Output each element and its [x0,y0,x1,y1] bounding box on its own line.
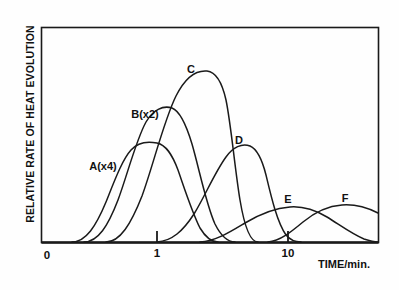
curve-d [157,145,301,242]
curve-label-b: B(x2) [131,108,159,120]
x-axis-title: TIME/min. [318,258,370,270]
curve-label-e: E [284,193,291,205]
chart-figure: RELATIVE RATE OF HEAT EVOLUTION 0 1 10 T… [0,0,399,290]
x-tick-label-10: 10 [282,247,295,259]
curve-label-f: F [342,192,349,204]
curve-e [200,207,378,242]
curve-b [84,107,235,242]
curve-label-c: C [187,63,195,75]
curve-c [106,71,258,242]
curve-label-d: D [235,134,243,146]
chart-plot-area [0,0,399,290]
curve-label-a: A(x4) [89,160,117,172]
curve-f [268,205,378,242]
x-tick-label-1: 1 [154,247,160,259]
x-tick-label-0: 0 [44,249,50,261]
